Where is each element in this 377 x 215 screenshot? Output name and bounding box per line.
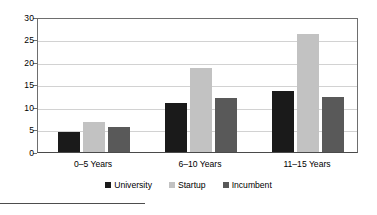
x-tick-label: 6–10 Years bbox=[155, 159, 245, 169]
legend-label: University bbox=[114, 180, 152, 190]
bar-university-1 bbox=[165, 103, 187, 152]
y-tick-label: 20 bbox=[8, 59, 34, 68]
bar-incumbent-2 bbox=[322, 97, 344, 152]
legend-item-incumbent: Incumbent bbox=[223, 180, 272, 190]
bar-university-0 bbox=[58, 132, 80, 152]
x-tick-label: 0–5 Years bbox=[48, 159, 138, 169]
x-tick-label: 11–15 Years bbox=[262, 159, 352, 169]
legend-swatch-icon bbox=[105, 182, 111, 188]
chart-legend: UniversityStartupIncumbent bbox=[0, 180, 377, 190]
legend-swatch-icon bbox=[223, 182, 229, 188]
y-tick-label: 10 bbox=[8, 104, 34, 113]
bar-incumbent-1 bbox=[215, 98, 237, 152]
bar-chart-figure: 051015202530 0–5 Years6–10 Years11–15 Ye… bbox=[0, 0, 377, 215]
y-tick-label: 15 bbox=[8, 81, 34, 90]
legend-item-startup: Startup bbox=[169, 180, 206, 190]
legend-item-university: University bbox=[105, 180, 152, 190]
legend-swatch-icon bbox=[169, 182, 175, 188]
y-tick-label: 30 bbox=[8, 14, 34, 23]
y-tick-label: 5 bbox=[8, 126, 34, 135]
legend-label: Incumbent bbox=[232, 180, 272, 190]
bar-incumbent-0 bbox=[108, 127, 130, 152]
bar-university-2 bbox=[272, 91, 294, 152]
y-tick-label: 0 bbox=[8, 149, 34, 158]
y-tick-label: 25 bbox=[8, 36, 34, 45]
bar-startup-1 bbox=[190, 68, 212, 152]
footnote-separator-rule bbox=[0, 203, 145, 204]
bar-startup-2 bbox=[297, 34, 319, 152]
bar-startup-0 bbox=[83, 122, 105, 152]
plot-area bbox=[37, 18, 358, 153]
legend-label: Startup bbox=[178, 180, 206, 190]
